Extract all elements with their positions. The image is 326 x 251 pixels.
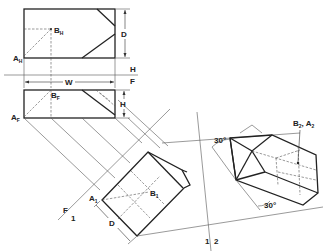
fold-label-2: 2 — [214, 237, 219, 246]
auxiliary-view-drawing: BH AH D H F W BF AF — [0, 0, 326, 251]
label-b-aux1: B1 — [150, 189, 159, 199]
dim-d-arrow-top — [124, 10, 127, 14]
fold-label-1: 1 — [71, 214, 76, 223]
front-view-hidden-slope — [96, 90, 115, 106]
angle-lower-label: 30° — [264, 201, 276, 210]
label-b2-a2: B2, A2 — [293, 119, 315, 129]
auxiliary-view-2: B2, A2 — [230, 119, 318, 205]
top-view: BH AH D — [13, 9, 131, 64]
fold-line-12: 1 2 — [197, 112, 219, 251]
front-view-hidden-slope-2 — [100, 93, 110, 101]
point-b2-a2 — [297, 162, 299, 164]
dim-w: W — [25, 77, 114, 87]
front-view: BF AF H — [11, 90, 130, 123]
label-b-front: BF — [51, 91, 60, 101]
point-b-top — [50, 28, 52, 30]
label-b-top: BH — [54, 26, 64, 36]
fold-label-h: H — [130, 65, 136, 74]
top-view-diagonal-ab — [24, 29, 51, 56]
dim-d-arrow-bottom — [124, 53, 127, 57]
front-view-slope — [82, 90, 115, 115]
dim-d-label: D — [121, 30, 127, 39]
angle-lower: 30° — [236, 180, 276, 210]
label-a-top: AH — [13, 54, 23, 64]
angle-upper-label: 30° — [214, 136, 226, 145]
dim-w-label: W — [65, 78, 73, 87]
front-view-diagonal-ab — [24, 90, 51, 117]
fold-label-f: F — [130, 77, 135, 86]
fold-label-f: F — [63, 206, 68, 215]
top-view-outline — [24, 9, 115, 58]
projection-lines-front-aux1 — [24, 100, 168, 190]
top-view-corner-cut-upper — [97, 9, 115, 26]
top-view-corner-cut-lower — [82, 34, 115, 58]
label-a-aux1: A1 — [89, 194, 98, 204]
label-a-front: AF — [11, 113, 20, 123]
fold-label-1: 1 — [205, 237, 210, 246]
dim-d-aux-label: D — [109, 219, 115, 228]
